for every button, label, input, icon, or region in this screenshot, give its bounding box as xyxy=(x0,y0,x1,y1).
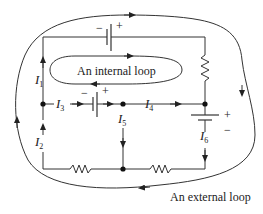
internal-loop-label: An internal loop xyxy=(77,64,156,78)
center-branch xyxy=(123,128,205,173)
circuit-svg: − + An internal loop I1 I2 I3 I4 − + I5 xyxy=(0,0,263,214)
mid-battery-minus: − xyxy=(81,86,88,100)
external-loop-path xyxy=(16,15,255,188)
top-battery-plus: + xyxy=(116,19,123,33)
top-battery-minus: − xyxy=(96,21,103,35)
current-label-i6: I6 xyxy=(199,128,208,145)
right-battery-plus: + xyxy=(224,108,231,122)
current-label-i4: I4 xyxy=(144,96,153,113)
current-label-i3: I3 xyxy=(55,96,64,113)
right-branch xyxy=(191,104,219,132)
external-loop-label: An external loop xyxy=(170,190,251,204)
current-label-i1: I1 xyxy=(34,72,43,89)
mid-battery-plus: + xyxy=(102,84,109,98)
circuit-diagram: − + An internal loop I1 I2 I3 I4 − + I5 xyxy=(0,0,263,214)
current-label-i5: I5 xyxy=(117,111,126,128)
current-label-i2: I2 xyxy=(34,134,43,151)
left-branch xyxy=(43,104,123,173)
node-left xyxy=(40,101,45,106)
node-right xyxy=(202,101,207,106)
node-middle xyxy=(120,101,125,106)
right-battery-minus: − xyxy=(224,123,231,137)
node-bottom xyxy=(120,166,125,171)
